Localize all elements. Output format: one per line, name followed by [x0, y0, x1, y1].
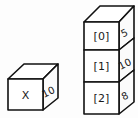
variable-box-front-label: X [22, 89, 30, 102]
array-box-stack: [0] 5 [1] 10 [2] 8 [84, 6, 134, 114]
array-box-2-index-label: [2] [93, 92, 109, 105]
variable-box: X 10 [8, 64, 58, 110]
array-box-1-index-label: [1] [93, 60, 109, 73]
diagram-canvas: X 10 [0] 5 [1] 10 [0, 0, 138, 118]
boxes-diagram: X 10 [0] 5 [1] 10 [0, 0, 138, 118]
array-box-0-index-label: [0] [93, 30, 109, 43]
